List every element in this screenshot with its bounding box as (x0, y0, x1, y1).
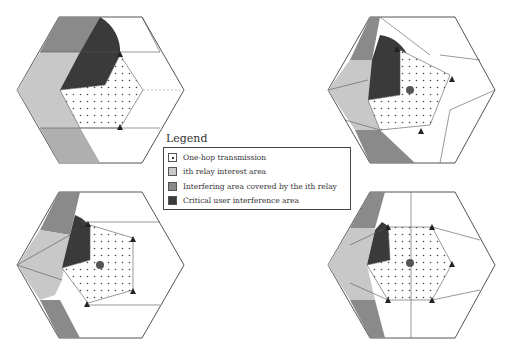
base-station-icon (96, 261, 104, 269)
legend-item-interfering-area: Interfering area covered by the ith rela… (168, 179, 346, 194)
critical-swatch-icon (168, 196, 177, 205)
panel-bottom-left (17, 192, 184, 338)
legend-item-critical-area: Critical user interference area (168, 194, 346, 209)
panel-top-left (17, 17, 184, 163)
panel-bottom-right (328, 192, 495, 338)
base-station-icon (406, 259, 414, 267)
legend: One-hop transmission ith relay interest … (163, 147, 351, 210)
relay-interest-swatch-icon (168, 167, 177, 176)
one-hop-swatch-icon (168, 153, 177, 162)
interfering-swatch-icon (168, 182, 177, 191)
base-station-icon (406, 86, 414, 94)
legend-item-relay-interest: ith relay interest area (168, 165, 346, 180)
legend-item-one-hop: One-hop transmission (168, 150, 346, 165)
panel-top-right (328, 17, 495, 163)
legend-title: Legend (166, 132, 208, 145)
